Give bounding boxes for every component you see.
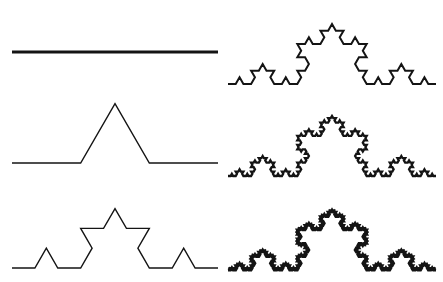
koch-curve-canvas bbox=[0, 0, 443, 282]
koch-curve-figure bbox=[0, 0, 443, 282]
figure-background bbox=[0, 0, 443, 282]
